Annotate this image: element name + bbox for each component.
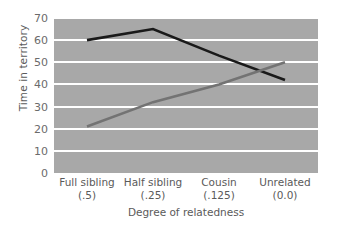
line-chart: Time in territory 010203040506070 Full s…	[0, 0, 338, 230]
y-tick-label: 20	[34, 123, 48, 134]
y-tick-label: 10	[34, 145, 48, 156]
y-tick-label: 50	[34, 57, 48, 68]
x-axis-title: Degree of relatedness	[54, 206, 318, 218]
y-tick-label: 40	[34, 79, 48, 90]
x-tick-label: Unrelated(0.0)	[242, 176, 328, 202]
x-tick-category: Cousin	[201, 176, 236, 188]
x-tick-value: (0.0)	[242, 189, 328, 202]
y-tick-label: 70	[34, 13, 48, 24]
x-tick-category: Half sibling	[124, 176, 183, 188]
series-layer	[54, 18, 318, 173]
y-tick-label: 60	[34, 35, 48, 46]
x-axis-ticks: Full sibling(.5)Half sibling(.25)Cousin(…	[54, 176, 318, 210]
y-tick-label: 30	[34, 101, 48, 112]
series-line-gray-line	[87, 62, 285, 126]
x-tick-category: Full sibling	[59, 176, 115, 188]
plot-area	[54, 18, 318, 173]
x-tick-category: Unrelated	[259, 176, 310, 188]
